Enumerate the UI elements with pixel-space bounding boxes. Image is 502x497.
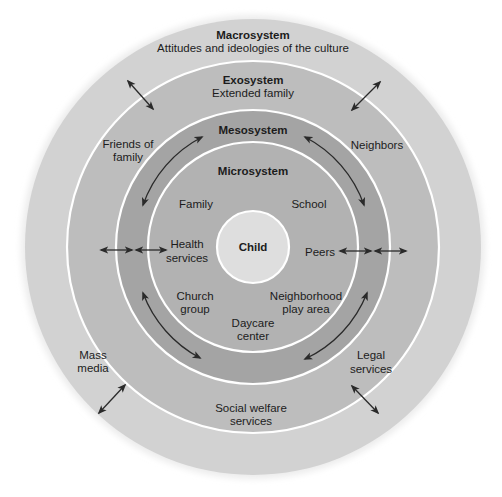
micro-item-daycare-center-line1: Daycare — [232, 317, 275, 329]
microsystem-title: Microsystem — [218, 165, 288, 177]
exo-item-mass-media-line2: media — [77, 362, 109, 374]
exo-item-social-welfare-line2: services — [230, 415, 272, 427]
exo-item-friends-of-family-line2: family — [113, 151, 143, 163]
exosystem-title: Exosystem — [223, 74, 284, 86]
micro-item-family: Family — [179, 198, 213, 210]
micro-item-health-services-line2: services — [166, 252, 208, 264]
micro-item-church-group-line1: Church — [176, 290, 213, 302]
exo-item-legal-services-line2: services — [350, 363, 392, 375]
exo-item-friends-of-family-line1: Friends of — [102, 138, 154, 150]
exo-item-legal-services-line1: Legal — [357, 349, 385, 361]
micro-item-church-group-line2: group — [180, 303, 209, 315]
macrosystem-title: Macrosystem — [216, 29, 290, 41]
exo-item-neighbors: Neighbors — [351, 139, 404, 151]
micro-item-health-services-line1: Health — [170, 238, 203, 250]
child-label: Child — [239, 241, 268, 253]
micro-item-neighborhood-play-area-line1: Neighborhood — [270, 290, 342, 302]
micro-item-peers: Peers — [305, 246, 335, 258]
micro-item-school: School — [291, 198, 326, 210]
micro-item-neighborhood-play-area-line2: play area — [282, 303, 330, 315]
micro-item-daycare-center-line2: center — [237, 330, 269, 342]
mesosystem-title: Mesosystem — [218, 124, 287, 136]
exo-item-social-welfare-line1: Social welfare — [215, 402, 287, 414]
ecological-systems-diagram: Macrosystem Attitudes and ideologies of … — [0, 0, 502, 497]
exo-item-mass-media-line1: Mass — [79, 349, 107, 361]
exosystem-subtitle: Extended family — [212, 87, 294, 99]
macrosystem-subtitle: Attitudes and ideologies of the culture — [157, 42, 349, 54]
